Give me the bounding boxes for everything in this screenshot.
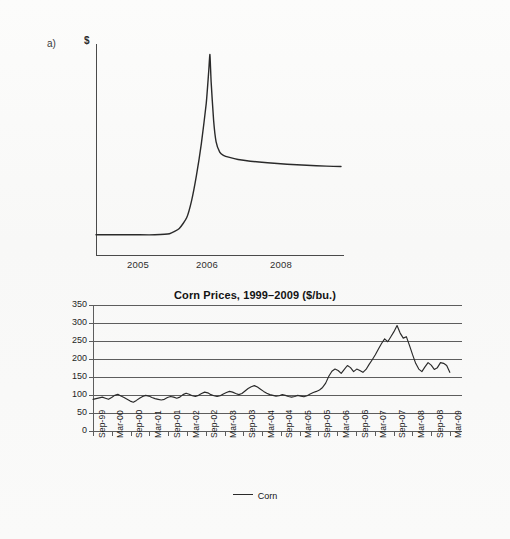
x-tick-mark-Sep-02 bbox=[206, 432, 207, 436]
x-tick-label-Sep-99: Sep-99 bbox=[97, 410, 107, 438]
x-tick-label-Sep-01: Sep-01 bbox=[172, 410, 182, 438]
x-tick-label-Sep-02: Sep-02 bbox=[209, 410, 219, 438]
y-tick-label-200: 200 bbox=[53, 353, 87, 363]
x-tick-label-Sep-03: Sep-03 bbox=[247, 410, 257, 438]
panel-b-y-tick-labels: 050100150200250300350 bbox=[53, 285, 87, 445]
y-tick-label-50: 50 bbox=[53, 407, 87, 417]
x-tick-mark-Sep-04 bbox=[281, 432, 282, 436]
y-tick-label-100: 100 bbox=[53, 389, 87, 399]
y-tick-label-350: 350 bbox=[53, 299, 87, 309]
panel-b: b) Corn Prices, 1999–2009 ($/bu.) 050100… bbox=[0, 285, 510, 539]
x-tick-mark-Sep-99 bbox=[93, 432, 94, 436]
x-tick-mark-Sep-03 bbox=[243, 432, 244, 436]
x-tick-mark-Mar-00 bbox=[112, 432, 113, 436]
x-tick-mark-Mar-06 bbox=[337, 432, 338, 436]
x-tick-label-Mar-00: Mar-00 bbox=[115, 410, 125, 438]
x-tick-label-Sep-04: Sep-04 bbox=[284, 410, 294, 438]
x-tick-mark-Mar-07 bbox=[375, 432, 376, 436]
x-tick-mark-Sep-08 bbox=[431, 432, 432, 436]
x-tick-mark-Sep-05 bbox=[318, 432, 319, 436]
x-tick-label-Sep-05: Sep-05 bbox=[322, 410, 332, 438]
figure-page: a) $ 2005 2006 2008 b) Corn Prices, 1999… bbox=[0, 0, 510, 539]
x-tick-mark-Sep-07 bbox=[394, 432, 395, 436]
panel-b-legend: Corn bbox=[0, 490, 510, 501]
panel-a-price-curve bbox=[96, 44, 341, 256]
x-tick-label-Mar-02: Mar-02 bbox=[191, 410, 201, 438]
x-tick-mark-Mar-04 bbox=[262, 432, 263, 436]
panel-a-plot-area bbox=[96, 44, 341, 256]
x-tick-mark-Sep-01 bbox=[168, 432, 169, 436]
x-tick-label-Mar-06: Mar-06 bbox=[341, 410, 351, 438]
panel-a-letter: a) bbox=[47, 38, 56, 49]
y-tick-label-300: 300 bbox=[53, 317, 87, 327]
x-tick-label-Mar-08: Mar-08 bbox=[416, 410, 426, 438]
legend-label-corn: Corn bbox=[258, 491, 278, 501]
x-tick-label-Sep-06: Sep-06 bbox=[360, 410, 370, 438]
legend-line-swatch bbox=[233, 494, 253, 495]
x-tick-label-Mar-09: Mar-09 bbox=[453, 410, 463, 438]
x-tick-mark-Sep-00 bbox=[131, 432, 132, 436]
x-tick-mark-Mar-08 bbox=[412, 432, 413, 436]
panel-a: a) $ 2005 2006 2008 bbox=[0, 0, 510, 285]
x-tick-label-Mar-01: Mar-01 bbox=[153, 410, 163, 438]
panel-a-xtick-2008: 2008 bbox=[270, 259, 292, 270]
x-tick-label-Sep-07: Sep-07 bbox=[397, 410, 407, 438]
x-tick-mark-Mar-05 bbox=[300, 432, 301, 436]
x-tick-mark-Mar-01 bbox=[149, 432, 150, 436]
x-tick-label-Mar-04: Mar-04 bbox=[266, 410, 276, 438]
x-tick-label-Mar-07: Mar-07 bbox=[378, 410, 388, 438]
x-tick-label-Sep-08: Sep-08 bbox=[435, 410, 445, 438]
panel-a-xtick-2005: 2005 bbox=[127, 259, 149, 270]
x-tick-label-Mar-05: Mar-05 bbox=[303, 410, 313, 438]
x-tick-mark-Mar-03 bbox=[225, 432, 226, 436]
y-tick-label-150: 150 bbox=[53, 371, 87, 381]
y-tick-label-0: 0 bbox=[53, 425, 87, 435]
x-tick-label-Mar-03: Mar-03 bbox=[228, 410, 238, 438]
x-tick-mark-Mar-09 bbox=[450, 432, 451, 436]
x-tick-label-Sep-00: Sep-00 bbox=[134, 410, 144, 438]
x-tick-mark-Mar-02 bbox=[187, 432, 188, 436]
y-tick-label-250: 250 bbox=[53, 335, 87, 345]
x-tick-mark-Sep-06 bbox=[356, 432, 357, 436]
panel-a-xtick-2006: 2006 bbox=[196, 259, 218, 270]
panel-a-y-axis-label: $ bbox=[84, 35, 90, 46]
